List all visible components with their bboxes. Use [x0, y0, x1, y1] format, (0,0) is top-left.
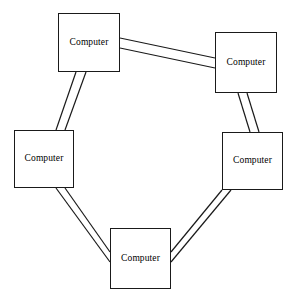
computer-node-bottom[interactable]: Computer — [110, 228, 171, 289]
computer-node-label: Computer — [25, 154, 64, 164]
computer-node-label: Computer — [70, 38, 109, 48]
computer-node-left[interactable]: Computer — [14, 130, 74, 188]
link-bottom-to-left-strand-a — [65, 188, 110, 252]
link-right-to-bottom-strand-b — [171, 190, 231, 262]
link-bottom-to-left-strand-b — [56, 188, 110, 262]
link-right-to-bottom-strand-a — [171, 190, 222, 252]
computer-node-label: Computer — [233, 156, 272, 166]
computer-node-top-left[interactable]: Computer — [58, 13, 120, 72]
link-left-to-top-left-strand-b — [65, 72, 86, 130]
ring-network-diagram: Computer Computer Computer Computer Comp… — [0, 0, 294, 296]
computer-node-label: Computer — [121, 254, 160, 264]
link-top-left-to-top-right-strand-b — [120, 48, 215, 68]
link-left-to-top-left-strand-a — [56, 72, 76, 130]
computer-node-label: Computer — [227, 58, 266, 68]
link-top-left-to-top-right-strand-a — [120, 38, 215, 58]
computer-node-right[interactable]: Computer — [222, 132, 283, 190]
computer-node-top-right[interactable]: Computer — [215, 32, 277, 93]
